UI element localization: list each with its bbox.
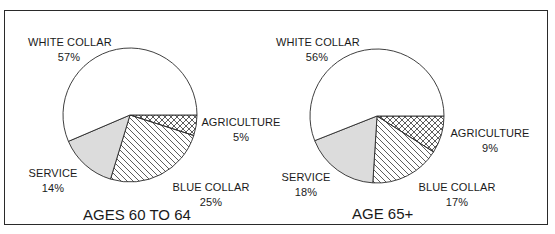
label-white-collar-left: WHITE COLLAR 57% [28, 35, 110, 65]
label-blue-collar-right: BLUE COLLAR 17% [418, 180, 496, 210]
label-agriculture-right: AGRICULTURE 9% [449, 126, 531, 156]
chart-title-age-65-plus: AGE 65+ [352, 206, 413, 222]
label-white-collar-right: WHITE COLLAR 56% [276, 35, 358, 65]
label-service-left: SERVICE 14% [26, 166, 80, 196]
pie-chart-age-65-plus [310, 49, 444, 183]
pie-chart-ages-60-64 [63, 48, 197, 182]
chart-title-ages-60-64: AGES 60 TO 64 [83, 207, 191, 223]
label-agriculture-left: AGRICULTURE 5% [201, 115, 281, 145]
label-service-right: SERVICE 18% [280, 170, 332, 200]
